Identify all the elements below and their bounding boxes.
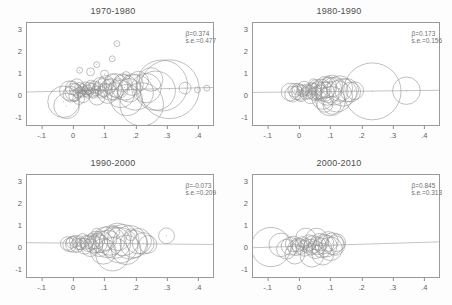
panel-title: 2000-2010 <box>226 158 452 168</box>
data-point-center <box>330 101 331 102</box>
data-point-center <box>90 85 91 86</box>
regression-annotation: β=0.845s.e.=0.313 <box>411 182 442 197</box>
data-point-center <box>166 235 167 236</box>
data-point-center <box>302 243 303 244</box>
data-point-center <box>313 83 314 84</box>
data-point-center <box>316 239 317 240</box>
data-point-center <box>327 82 328 83</box>
y-tick-label: 0 <box>244 243 252 252</box>
data-point-center <box>332 243 333 244</box>
data-point-center <box>104 90 105 91</box>
annotation-line: s.e.=0.477 <box>185 37 216 44</box>
x-tick-label: -.1 <box>263 278 272 292</box>
y-tick-label: 1 <box>244 68 252 77</box>
data-point-center <box>72 87 73 88</box>
data-point-center <box>161 85 162 86</box>
x-tick-label: .3 <box>390 278 396 292</box>
data-point-center <box>307 89 308 90</box>
data-point-center <box>124 87 125 88</box>
data-point-center <box>151 79 152 80</box>
data-point-center <box>96 64 97 65</box>
x-tick-label: 0 <box>297 126 301 140</box>
x-tick-label: 0 <box>297 278 301 292</box>
data-point-center <box>85 86 86 87</box>
y-tick-label: 0 <box>244 91 252 100</box>
data-point-center <box>129 90 130 91</box>
y-tick-label: 1 <box>244 220 252 229</box>
data-point-center <box>79 87 80 88</box>
data-point-center <box>336 242 337 243</box>
data-point-center <box>294 90 295 91</box>
regression-annotation: β=0.173s.e.=0.156 <box>411 30 442 45</box>
data-point-center <box>342 92 343 93</box>
y-tick-label: 1 <box>18 68 26 77</box>
y-tick-label: 3 <box>244 24 252 33</box>
y-tick-label: -1 <box>15 113 26 122</box>
panel-title: 1980-1990 <box>226 6 452 16</box>
x-tick-label: 0 <box>71 278 75 292</box>
data-point-center <box>112 58 113 59</box>
x-tick-label: .1 <box>327 278 333 292</box>
data-point-center <box>346 90 347 91</box>
data-point-center <box>90 71 91 72</box>
x-tick-label: .3 <box>164 278 170 292</box>
y-tick-label: -1 <box>241 265 252 274</box>
y-tick-label: 3 <box>244 176 252 185</box>
data-point-center <box>113 231 114 232</box>
panel-1970-1980: 1970-1980 -10123 -.10.1.2.3.4 β=0.374s.e… <box>0 0 226 152</box>
y-tick-label: -1 <box>241 113 252 122</box>
data-point-center <box>63 101 64 102</box>
regression-annotation: β=-0.073s.e.=0.209 <box>185 182 216 197</box>
data-point-center <box>86 242 87 243</box>
data-point-center <box>169 89 170 90</box>
y-tick-label: 2 <box>18 46 26 55</box>
data-point-center <box>122 82 123 83</box>
data-point-center <box>332 105 333 106</box>
data-point-center <box>101 92 102 93</box>
x-tick-label: .1 <box>327 126 333 140</box>
data-point-center <box>295 247 296 248</box>
data-point-center <box>67 243 68 244</box>
data-point-center <box>350 92 351 93</box>
x-tick-label: .2 <box>359 126 365 140</box>
data-point-center <box>79 70 80 71</box>
data-point-center <box>324 104 325 105</box>
data-point-center <box>313 91 314 92</box>
data-point-center <box>326 246 327 247</box>
x-tick-label: -.1 <box>37 278 46 292</box>
panel-1990-2000: 1990-2000 -10123 -.10.1.2.3.4 β=-0.073s.… <box>0 152 226 304</box>
data-point-center <box>126 249 127 250</box>
data-point-center <box>84 90 85 91</box>
panel-title: 1990-2000 <box>0 158 226 168</box>
annotation-line: β=0.845 <box>411 182 442 189</box>
data-point-center <box>97 243 98 244</box>
data-point-center <box>123 240 124 241</box>
regression-annotation: β=0.374s.e.=0.477 <box>185 30 216 45</box>
x-tick-label: -.1 <box>263 126 272 140</box>
y-tick-label: 3 <box>18 176 26 185</box>
data-point-center <box>406 90 407 91</box>
y-tick-label: 2 <box>18 198 26 207</box>
data-point-center <box>185 88 186 89</box>
y-tick-label: 2 <box>244 46 252 55</box>
y-tick-label: 2 <box>244 198 252 207</box>
data-point-center <box>354 90 355 91</box>
x-tick-label: .2 <box>133 278 139 292</box>
data-point-center <box>76 85 77 86</box>
data-point-center <box>294 254 295 255</box>
data-point-center <box>120 94 121 95</box>
data-point-center <box>126 100 127 101</box>
panel-2000-2010: 2000-2010 -10123 -.10.1.2.3.4 β=0.845s.e… <box>226 152 452 304</box>
data-point-center <box>339 88 340 89</box>
y-tick-label: 1 <box>18 220 26 229</box>
data-point-center <box>319 92 320 93</box>
data-point-center <box>334 245 335 246</box>
data-point-center <box>301 95 302 96</box>
panel-title: 1970-1980 <box>0 6 226 16</box>
data-point-center <box>318 90 319 91</box>
data-point-center <box>134 244 135 245</box>
x-tick-label: .1 <box>101 278 107 292</box>
x-tick-label: .4 <box>195 278 201 292</box>
panel-1980-1990: 1980-1990 -10123 -.10.1.2.3.4 β=0.173s.e… <box>226 0 452 152</box>
data-point-center <box>115 242 116 243</box>
